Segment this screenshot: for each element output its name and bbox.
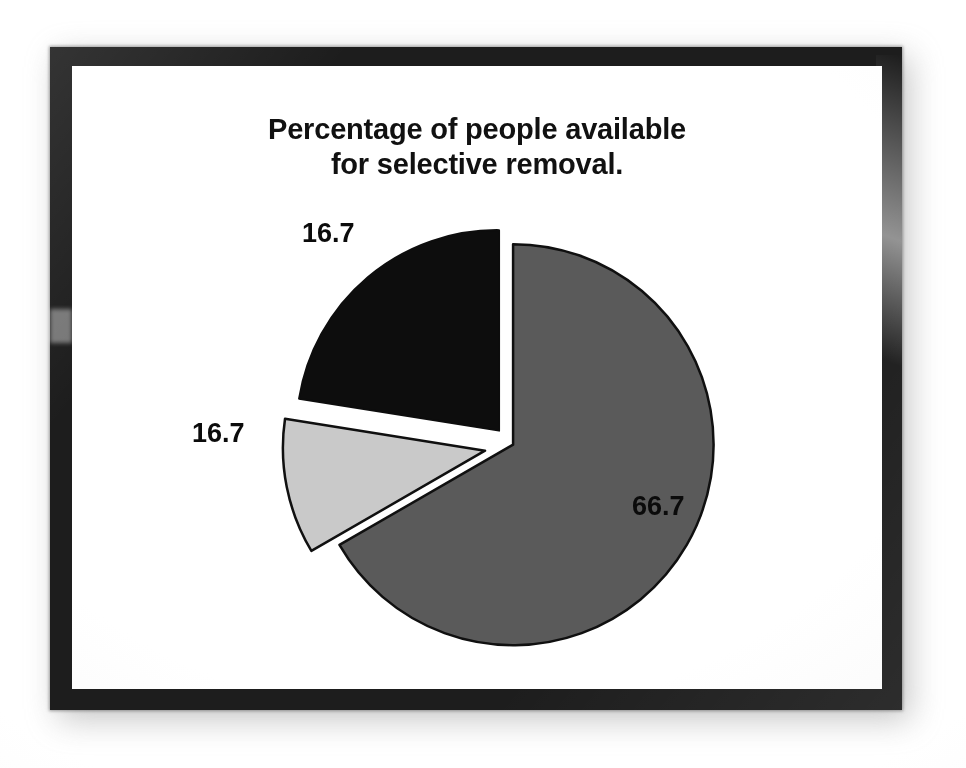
- pie-slice-16-7-black[interactable]: [299, 230, 499, 431]
- picture-frame: Percentage of people available for selec…: [50, 47, 902, 710]
- pie-label-black-slice: 16.7: [302, 218, 355, 249]
- pie-chart-plot: [72, 66, 882, 689]
- frame-scan-artifact: [50, 309, 72, 343]
- screenshot-root: Percentage of people available for selec…: [0, 0, 966, 768]
- pie-label-main-slice: 66.7: [632, 491, 685, 522]
- pie-label-light-slice: 16.7: [192, 418, 245, 449]
- chart-paper: Percentage of people available for selec…: [72, 66, 882, 689]
